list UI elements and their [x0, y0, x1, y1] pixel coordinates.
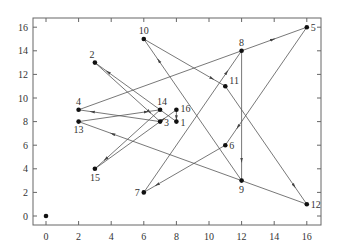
point-label: 4: [76, 96, 81, 107]
point-label: 16: [180, 103, 190, 114]
point-label: 10: [139, 25, 149, 36]
point-label: 9: [239, 184, 244, 195]
x-tick-label: 14: [269, 231, 279, 242]
arrow-icon: [237, 126, 239, 128]
arrow-icon: [212, 79, 214, 80]
route-point: [142, 37, 147, 42]
y-tick-label: 10: [18, 93, 28, 104]
arrow-icon: [111, 133, 116, 135]
y-tick-label: 6: [23, 140, 28, 151]
x-tick-label: 10: [204, 231, 214, 242]
route-point: [305, 202, 310, 207]
point-label: 15: [90, 172, 100, 183]
x-tick-label: 0: [44, 231, 49, 242]
arrow-icon: [270, 39, 275, 41]
y-tick-label: 4: [23, 163, 28, 174]
x-axis-ticks: 0246810121416: [44, 18, 312, 242]
y-axis-ticks: 0246810121416: [18, 22, 321, 222]
route-edges: [79, 27, 307, 204]
x-tick-label: 2: [76, 231, 81, 242]
arrow-icon: [106, 71, 108, 72]
x-tick-label: 6: [141, 231, 146, 242]
route-point: [174, 119, 179, 124]
arrow-icon: [155, 185, 157, 186]
point-label: 12: [311, 199, 321, 210]
route-point: [239, 49, 244, 54]
x-tick-label: 8: [174, 231, 179, 242]
route-point: [223, 143, 228, 148]
route-point: [174, 108, 179, 113]
x-tick-label: 4: [109, 231, 114, 242]
route-point: [239, 178, 244, 183]
arrow-icon: [150, 112, 151, 113]
point-label: 7: [135, 187, 140, 198]
arrow-icon: [104, 159, 105, 160]
point-label: 8: [239, 37, 244, 48]
x-tick-label: 12: [237, 231, 247, 242]
route-point: [142, 190, 147, 195]
arrow-icon: [226, 71, 228, 74]
route-point: [93, 167, 98, 172]
y-tick-label: 2: [23, 187, 28, 198]
y-tick-label: 16: [18, 22, 28, 33]
point-label: 11: [229, 75, 239, 86]
route-point: [223, 84, 228, 89]
y-tick-label: 14: [18, 45, 28, 56]
point-label: 5: [311, 22, 316, 33]
route-point: [76, 108, 81, 113]
point-label: 1: [180, 117, 185, 128]
point-label: 2: [89, 49, 94, 60]
arrow-icon: [294, 185, 296, 187]
point-label: 3: [164, 117, 169, 128]
y-tick-label: 8: [23, 116, 28, 127]
route-point: [44, 214, 49, 219]
route-chart: 0246810121416 0246810121416 123456789101…: [0, 0, 340, 252]
arrow-icon: [157, 59, 159, 62]
route-point: [158, 119, 163, 124]
x-tick-label: 16: [302, 231, 312, 242]
route-point: [93, 60, 98, 65]
point-label: 13: [74, 124, 84, 135]
y-tick-label: 0: [23, 211, 28, 222]
route-point: [305, 25, 310, 30]
route-point: [158, 108, 163, 113]
point-label: 6: [229, 140, 234, 151]
y-tick-label: 12: [18, 69, 28, 80]
point-label: 14: [157, 96, 167, 107]
